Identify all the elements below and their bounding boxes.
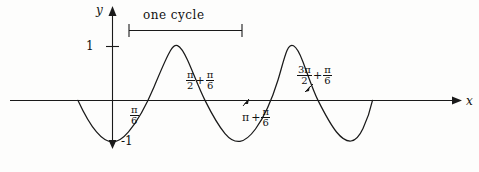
- x-axis-label: x: [466, 95, 473, 107]
- graph-canvas: [0, 0, 479, 172]
- plus-sign: +: [195, 75, 206, 86]
- x-label-three-pi-over-2-plus-pi-over-6: 3π 2 + π 6: [297, 65, 332, 87]
- one-cycle-bracket: [129, 24, 242, 37]
- one-cycle-label: one cycle: [143, 9, 205, 21]
- y-tick-label-minus-one: -1: [121, 135, 133, 147]
- fraction-pi-over-2: π 2: [186, 70, 195, 92]
- fraction-pi-over-6: π 6: [323, 65, 332, 87]
- y-tick-label-one: 1: [86, 40, 94, 52]
- x-label-pi-over-2-plus-pi-over-6: π 2 + π 6: [186, 70, 214, 92]
- y-axis-label: y: [96, 4, 103, 16]
- fraction-three-pi-over-2: 3π 2: [297, 65, 312, 87]
- fraction-pi-over-6: π 6: [261, 107, 270, 129]
- plus-sign: +: [250, 112, 261, 123]
- x-label-pi-plus-pi-over-6: π+ π 6: [241, 107, 270, 129]
- fraction-pi-over-6: π 6: [206, 70, 215, 92]
- plus-sign: +: [312, 70, 323, 81]
- fraction-pi-over-6: π 6: [130, 105, 139, 127]
- y-axis-arrowhead-top: [109, 6, 117, 16]
- x-label-pi-over-6: π 6: [130, 105, 139, 127]
- x-axis-arrowhead: [452, 97, 462, 105]
- sine-curve-figure: y x 1 -1 one cycle π 6 π 2 + π 6 π+: [0, 0, 479, 172]
- wave-curve: [78, 45, 373, 142]
- y-axis: [109, 6, 117, 149]
- pi-symbol: π: [241, 112, 250, 123]
